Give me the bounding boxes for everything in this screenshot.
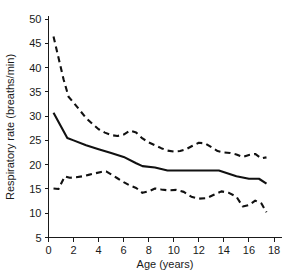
y-tick-label: 35 — [29, 86, 41, 98]
x-tick-label: 16 — [243, 244, 255, 256]
x-tick-marks — [49, 238, 275, 242]
y-axis-title: Respiratory rate (breaths/min) — [4, 54, 16, 200]
x-tick-label: 4 — [96, 244, 102, 256]
chart-canvas: 5101520253035404550 024681012141618 Age … — [0, 0, 288, 274]
x-tick-label: 12 — [193, 244, 205, 256]
respiratory-rate-chart: 5101520253035404550 024681012141618 Age … — [0, 0, 288, 274]
y-tick-label: 10 — [29, 207, 41, 219]
x-tick-label: 14 — [218, 244, 230, 256]
y-tick-label: 50 — [29, 13, 41, 25]
x-tick-label: 10 — [168, 244, 180, 256]
x-tick-label: 8 — [146, 244, 152, 256]
y-tick-label: 15 — [29, 183, 41, 195]
y-tick-label: 20 — [29, 159, 41, 171]
x-axis-group: 024681012141618 — [45, 238, 282, 256]
x-axis-title: Age (years) — [137, 258, 194, 270]
series-line-dashed — [54, 36, 267, 158]
x-tick-label: 6 — [121, 244, 127, 256]
y-tick-label: 30 — [29, 110, 41, 122]
x-tick-label: 0 — [45, 244, 51, 256]
y-tick-labels: 5101520253035404550 — [29, 13, 41, 244]
y-tick-label: 25 — [29, 134, 41, 146]
y-tick-label: 40 — [29, 62, 41, 74]
y-tick-label: 45 — [29, 37, 41, 49]
y-axis-group: 5101520253035404550 — [29, 13, 48, 244]
series-line-dashed — [54, 171, 267, 212]
x-tick-labels: 024681012141618 — [45, 244, 280, 256]
data-series-group — [54, 36, 267, 212]
y-tick-label: 5 — [35, 232, 41, 244]
y-tick-marks — [45, 19, 49, 238]
x-tick-label: 18 — [268, 244, 280, 256]
x-tick-label: 2 — [70, 244, 76, 256]
